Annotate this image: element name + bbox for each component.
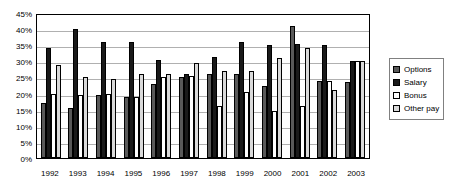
- legend-swatch-icon: [393, 79, 400, 86]
- bar: [332, 90, 337, 158]
- legend-swatch-icon: [393, 92, 400, 99]
- x-tick-label: 1992: [41, 160, 59, 182]
- legend-swatch-icon: [393, 66, 400, 73]
- x-tick-label: 1994: [97, 160, 115, 182]
- bar: [194, 63, 199, 158]
- x-tick-label: 1995: [125, 160, 143, 182]
- plot-area: [36, 14, 370, 159]
- legend-item-label: Other pay: [404, 104, 439, 113]
- x-tick-label: 2000: [264, 160, 282, 182]
- y-tick-label: 5%: [20, 138, 32, 147]
- bar: [360, 61, 365, 158]
- legend-item-label: Salary: [404, 78, 427, 87]
- legend-item: Salary: [393, 76, 439, 89]
- bar-group: [151, 15, 171, 158]
- x-tick-label: 1996: [152, 160, 170, 182]
- bar: [56, 65, 61, 158]
- bar: [249, 71, 254, 158]
- bar-group: [124, 15, 144, 158]
- y-tick-label: 0%: [20, 155, 32, 164]
- bar-group: [96, 15, 116, 158]
- y-tick-label: 45%: [16, 10, 32, 19]
- bar-group: [317, 15, 337, 158]
- bars-layer: [37, 15, 369, 158]
- y-tick-label: 25%: [16, 74, 32, 83]
- legend-item-label: Bonus: [404, 91, 427, 100]
- legend-item-label: Options: [404, 65, 432, 74]
- bar: [111, 79, 116, 158]
- legend-item: Options: [393, 63, 439, 76]
- y-tick-label: 20%: [16, 90, 32, 99]
- bar-group: [234, 15, 254, 158]
- bar-group: [262, 15, 282, 158]
- chart-legend: OptionsSalaryBonusOther pay: [389, 58, 444, 120]
- y-tick-label: 15%: [16, 106, 32, 115]
- x-tick-label: 1993: [69, 160, 87, 182]
- x-tick-label: 1999: [236, 160, 254, 182]
- bar: [222, 71, 227, 158]
- bar-chart: 45%40%35%30%25%20%15%10%5%0% 19921993199…: [0, 0, 457, 192]
- y-tick-label: 40%: [16, 26, 32, 35]
- x-tick-label: 1997: [180, 160, 198, 182]
- legend-swatch-icon: [393, 105, 400, 112]
- y-tick-label: 10%: [16, 122, 32, 131]
- bar: [166, 74, 171, 158]
- bar: [277, 58, 282, 158]
- bar-group: [345, 15, 365, 158]
- legend-item: Bonus: [393, 89, 439, 102]
- x-tick-label: 2002: [319, 160, 337, 182]
- y-tick-label: 35%: [16, 42, 32, 51]
- legend-item: Other pay: [393, 102, 439, 115]
- y-axis: 45%40%35%30%25%20%15%10%5%0%: [0, 0, 34, 192]
- bar-group: [290, 15, 310, 158]
- x-tick-label: 1998: [208, 160, 226, 182]
- bar-group: [179, 15, 199, 158]
- y-tick-label: 30%: [16, 58, 32, 67]
- x-axis: 1992199319941995199619971998199920002001…: [36, 160, 370, 182]
- bar-group: [41, 15, 61, 158]
- bar-group: [68, 15, 88, 158]
- x-tick-label: 2001: [291, 160, 309, 182]
- bar: [139, 74, 144, 158]
- bar: [83, 77, 88, 158]
- bar-group: [207, 15, 227, 158]
- bar: [305, 48, 310, 158]
- x-tick-label: 2003: [347, 160, 365, 182]
